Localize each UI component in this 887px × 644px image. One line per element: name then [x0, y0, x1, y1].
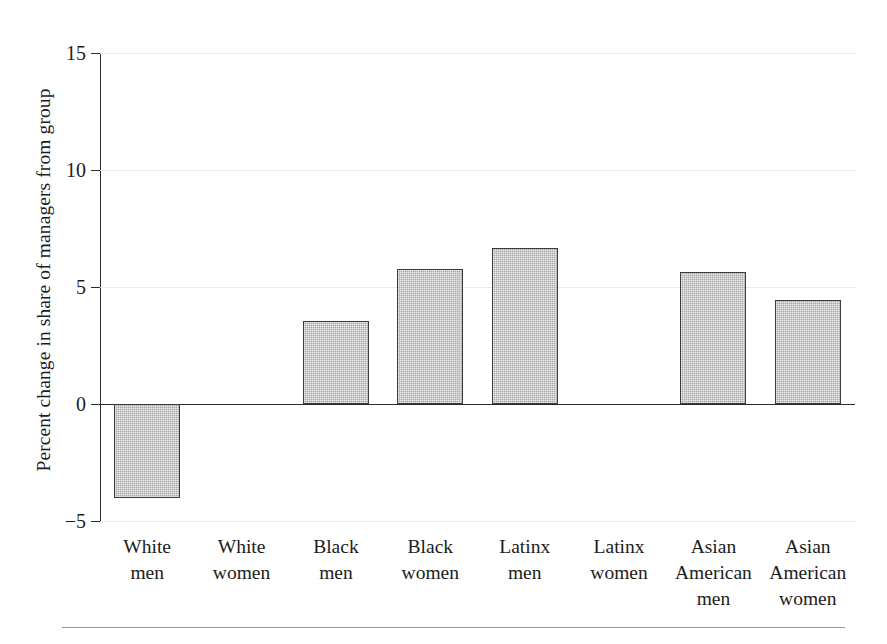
bottom-rule: [62, 627, 845, 628]
x-axis-label-white-men: Whitemen: [100, 534, 194, 586]
y-tick-label-minus5: −5: [30, 511, 86, 531]
x-axis-label-latinx-women: Latinxwomen: [572, 534, 666, 586]
y-tick-mark-15: [91, 53, 100, 54]
y-tick-label-0: 0: [30, 394, 86, 414]
x-axis-label-line: men: [289, 560, 383, 586]
x-axis-label-line: Asian: [666, 534, 760, 560]
bar-black-men[interactable]: [303, 321, 369, 404]
y-tick-label-15: 15: [30, 43, 86, 63]
gridline-10: [100, 170, 855, 171]
x-axis-label-line: men: [478, 560, 572, 586]
bar-asian-american-men[interactable]: [680, 272, 746, 404]
x-axis-label-line: White: [100, 534, 194, 560]
x-axis-label-line: women: [761, 586, 855, 612]
bar-white-men[interactable]: [114, 404, 180, 498]
x-axis-label-line: Black: [383, 534, 477, 560]
y-tick-mark-10: [91, 170, 100, 171]
bar-asian-american-women[interactable]: [775, 300, 841, 404]
x-axis-label-white-women: Whitewomen: [194, 534, 288, 586]
y-tick-mark-5: [91, 287, 100, 288]
x-axis-label-line: Asian: [761, 534, 855, 560]
x-axis-label-line: Black: [289, 534, 383, 560]
x-axis-label-line: Latinx: [478, 534, 572, 560]
y-tick-label-10: 10: [30, 160, 86, 180]
gridline-15: [100, 53, 855, 54]
x-axis-label-line: American: [666, 560, 760, 586]
x-axis-label-line: White: [194, 534, 288, 560]
x-axis-label-black-women: Blackwomen: [383, 534, 477, 586]
bar-chart-figure: Percent change in share of managers from…: [0, 0, 887, 644]
bar-latinx-men[interactable]: [492, 248, 558, 404]
plot-area: [100, 53, 855, 521]
x-axis-label-line: women: [194, 560, 288, 586]
zero-baseline: [97, 404, 855, 405]
x-axis-label-line: men: [100, 560, 194, 586]
x-axis-label-asian-american-women: AsianAmericanwomen: [761, 534, 855, 612]
y-tick-label-5: 5: [30, 277, 86, 297]
x-axis-label-line: Latinx: [572, 534, 666, 560]
gridline--5: [100, 521, 855, 522]
x-axis-label-asian-american-men: AsianAmericanmen: [666, 534, 760, 612]
x-axis-label-line: women: [383, 560, 477, 586]
y-tick-mark-minus5: [91, 521, 100, 522]
x-axis-label-line: American: [761, 560, 855, 586]
bar-black-women[interactable]: [397, 269, 463, 404]
x-axis-label-latinx-men: Latinxmen: [478, 534, 572, 586]
x-axis-label-line: women: [572, 560, 666, 586]
x-axis-label-line: men: [666, 586, 760, 612]
x-axis-label-black-men: Blackmen: [289, 534, 383, 586]
